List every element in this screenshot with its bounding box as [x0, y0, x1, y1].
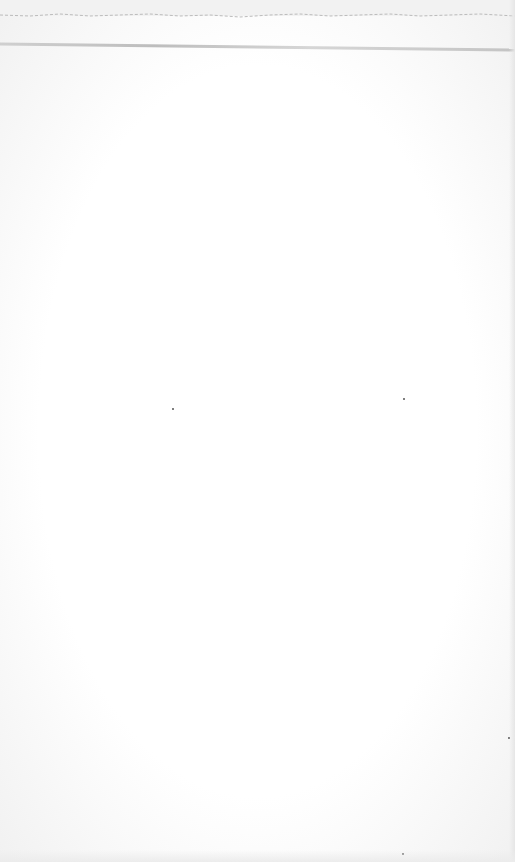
fold-shadow-line	[0, 42, 515, 52]
paper-speck	[172, 408, 174, 410]
paper-speck	[403, 398, 405, 400]
bottom-edge-shadow	[0, 850, 515, 862]
right-edge-shadow	[509, 0, 515, 862]
blank-paper-sheet	[0, 0, 515, 862]
torn-top-edge	[0, 10, 515, 20]
